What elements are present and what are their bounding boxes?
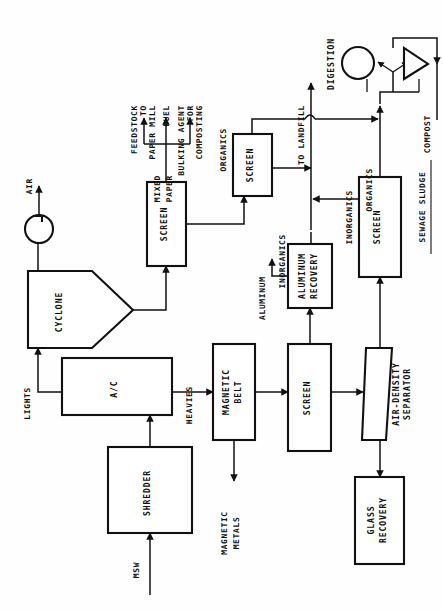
output-label-fuel: FUEL <box>162 105 171 127</box>
unit-label-cyclone: CYCLONE <box>54 292 64 332</box>
output-label-magnetic-metals-line1: MAGNETIC <box>220 511 229 555</box>
unit-label-aluminum-recovery-line2: RECOVERY <box>309 253 319 299</box>
output-label-compost: COMPOST <box>423 115 432 153</box>
process-flow-diagram: SHREDDER A/C CYCLONE SCREEN SCREEN MAGNE… <box>0 0 443 611</box>
unit-label-glass-recovery-line2: RECOVERY <box>378 497 388 543</box>
unit-compost-pile[interactable] <box>404 48 428 79</box>
output-label-bulking-line3: COMPOSTING <box>195 105 204 160</box>
stream-label-inorganics-right: INORGANICS <box>345 190 354 245</box>
input-label-sewage-sludge: SEWAGE SLUDGE <box>418 172 427 243</box>
unit-label-air-classifier: A/C <box>109 380 119 397</box>
stream-label-organics-right: ORGANICS <box>365 168 374 212</box>
flow-digestion-to-digester <box>378 62 393 72</box>
stream-label-mixed-paper-line1: MIXED <box>153 175 162 202</box>
stream-label-inorganics-mid: INORGANICS <box>278 234 287 289</box>
flow-digestion-feed-bar <box>380 92 419 104</box>
flow-diagram-canvas: SHREDDER A/C CYCLONE SCREEN SCREEN MAGNE… <box>0 0 443 611</box>
unit-digester[interactable] <box>342 47 374 79</box>
stream-label-mixed-paper-line2: PAPER <box>165 175 174 202</box>
unit-cyclone[interactable] <box>28 271 133 348</box>
output-label-magnetic-metals-line2: METALS <box>232 517 241 550</box>
flow-cyclone-to-screen-paper <box>133 266 166 310</box>
unit-label-shredder: SHREDDER <box>142 470 152 516</box>
output-label-feedstock-line1: FEEDSTOCK <box>130 105 139 154</box>
stream-label-heavies: HEAVIES <box>185 386 194 424</box>
unit-label-magnetic-belt-line1: MAGNETIC <box>221 369 231 415</box>
flow-lights-to-cyclone <box>38 348 62 392</box>
flow-line-hop-bridge <box>305 115 315 119</box>
output-label-aluminum: ALUMINUM <box>258 276 267 320</box>
stream-label-organics-top: ORGANICS <box>219 128 228 172</box>
output-label-feedstock-line2: TO <box>139 105 148 116</box>
output-label-bulking-line1: BULKING AGENT <box>177 105 186 176</box>
stream-label-lights: LIGHTS <box>23 387 32 420</box>
unit-label-screen-organics: SCREEN <box>245 148 255 183</box>
unit-label-screen-paper: SCREEN <box>159 207 169 242</box>
output-label-air: AIR <box>25 178 34 194</box>
unit-label-glass-recovery-line1: GLASS <box>366 506 376 535</box>
output-label-to-landfill: TO LANDFILL <box>297 105 306 165</box>
flow-screen-paper-to-screen-organics <box>186 196 244 224</box>
unit-air-density-separator[interactable] <box>362 348 392 440</box>
input-label-msw: MSW <box>132 562 141 578</box>
output-label-bulking-line2: FOR <box>186 105 195 121</box>
unit-label-screen-inorganics: SCREEN <box>372 210 382 245</box>
unit-label-screen-heavies: SCREEN <box>302 381 312 416</box>
unit-label-magnetic-belt-line2: BELT <box>233 380 243 403</box>
unit-label-ads-line2: SEPARATOR <box>402 368 412 420</box>
output-label-feedstock-line3: PAPER MILL <box>148 105 157 160</box>
unit-label-aluminum-recovery-line1: ALUMINUM <box>297 253 307 299</box>
unit-label-digestion: DIGESTION <box>326 38 336 90</box>
unit-label-ads-line1: AIR-DENSITY <box>391 362 401 426</box>
